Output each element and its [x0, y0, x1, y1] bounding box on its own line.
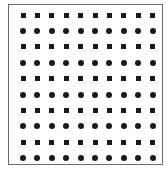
square-mark [121, 140, 126, 145]
circle-mark [121, 123, 127, 129]
square-mark [21, 140, 26, 145]
square-mark [78, 108, 83, 113]
circle-mark [34, 60, 40, 66]
circle-mark [106, 123, 112, 129]
square-mark [136, 108, 141, 113]
circle-mark [150, 123, 156, 129]
square-mark [35, 140, 40, 145]
square-mark [107, 13, 112, 18]
circle-mark [121, 60, 127, 66]
circle-mark [20, 155, 26, 161]
square-mark [78, 44, 83, 49]
square-mark [107, 140, 112, 145]
circle-mark [20, 60, 26, 66]
circle-mark [49, 60, 55, 66]
square-mark [64, 13, 69, 18]
square-mark [136, 140, 141, 145]
square-mark [93, 108, 98, 113]
circle-mark [150, 28, 156, 34]
circle-mark [92, 28, 98, 34]
square-mark [107, 108, 112, 113]
circle-mark [34, 155, 40, 161]
square-mark [35, 13, 40, 18]
square-mark [49, 44, 54, 49]
circle-mark [150, 92, 156, 98]
circle-mark [121, 28, 127, 34]
circle-mark [106, 60, 112, 66]
square-mark [136, 13, 141, 18]
square-mark [121, 108, 126, 113]
circle-mark [135, 28, 141, 34]
circle-mark [92, 92, 98, 98]
square-mark [93, 76, 98, 81]
circle-mark [63, 123, 69, 129]
circle-mark [63, 92, 69, 98]
square-mark [78, 76, 83, 81]
circle-mark [34, 123, 40, 129]
circle-mark [20, 123, 26, 129]
circle-mark [20, 92, 26, 98]
square-mark [35, 108, 40, 113]
circle-mark [34, 92, 40, 98]
square-mark [93, 13, 98, 18]
circle-mark [49, 28, 55, 34]
circle-mark [78, 60, 84, 66]
circle-mark [121, 155, 127, 161]
circle-mark [34, 28, 40, 34]
circle-mark [135, 60, 141, 66]
square-mark [150, 76, 155, 81]
circle-mark [49, 155, 55, 161]
square-mark [21, 44, 26, 49]
square-mark [121, 76, 126, 81]
square-mark [64, 76, 69, 81]
circle-mark [106, 155, 112, 161]
square-mark [49, 76, 54, 81]
square-mark [150, 44, 155, 49]
circle-mark [121, 92, 127, 98]
circle-mark [135, 123, 141, 129]
square-mark [150, 140, 155, 145]
circle-mark [63, 28, 69, 34]
square-mark [150, 108, 155, 113]
circle-mark [78, 155, 84, 161]
circle-mark [63, 155, 69, 161]
square-mark [107, 76, 112, 81]
circle-mark [78, 92, 84, 98]
square-mark [21, 13, 26, 18]
circle-mark [63, 60, 69, 66]
square-mark [78, 13, 83, 18]
circle-mark [92, 60, 98, 66]
square-mark [49, 13, 54, 18]
circle-mark [150, 155, 156, 161]
circle-mark [106, 28, 112, 34]
circle-mark [135, 155, 141, 161]
circle-mark [106, 92, 112, 98]
square-mark [64, 44, 69, 49]
square-mark [93, 140, 98, 145]
square-mark [49, 140, 54, 145]
circle-mark [78, 28, 84, 34]
square-mark [21, 76, 26, 81]
circle-mark [78, 123, 84, 129]
square-mark [150, 13, 155, 18]
pattern-frame [8, 4, 163, 165]
square-mark [35, 76, 40, 81]
circle-mark [49, 92, 55, 98]
square-mark [136, 44, 141, 49]
square-mark [21, 108, 26, 113]
square-mark [121, 44, 126, 49]
square-mark [64, 140, 69, 145]
circle-mark [92, 123, 98, 129]
square-mark [64, 108, 69, 113]
square-mark [49, 108, 54, 113]
square-mark [136, 76, 141, 81]
circle-mark [135, 92, 141, 98]
circle-mark [150, 60, 156, 66]
square-mark [93, 44, 98, 49]
circle-mark [49, 123, 55, 129]
square-mark [121, 13, 126, 18]
circle-mark [20, 28, 26, 34]
square-mark [107, 44, 112, 49]
square-mark [35, 44, 40, 49]
square-mark [78, 140, 83, 145]
